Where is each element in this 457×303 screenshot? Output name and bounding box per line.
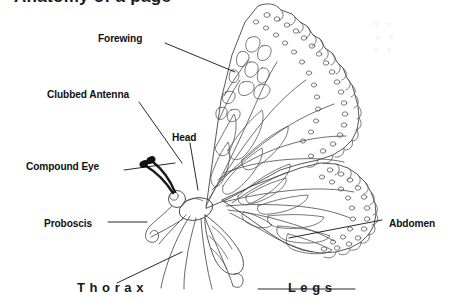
label-thorax: T h o r a x [77,281,144,294]
label-legs: L e g s [288,281,332,294]
label-head: Head [172,132,196,144]
butterfly-anatomy-diagram: ★ ★ ★ ★★ ★ Anatomy of a page [0,0,457,303]
label-clubbed-antenna: Clubbed Antenna [47,89,129,101]
label-abdomen: Abdomen [389,218,435,230]
label-proboscis: Proboscis [44,218,92,230]
label-compound-eye: Compound Eye [26,161,99,173]
butterfly-illustration [0,0,457,303]
label-forewing: Forewing [98,33,142,45]
